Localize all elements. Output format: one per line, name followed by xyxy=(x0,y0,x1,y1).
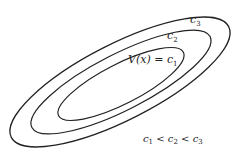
label-v-equals-c1: V(x) = c1 xyxy=(128,53,178,68)
label-c2: c2 xyxy=(167,29,178,44)
relation-label: c1 < c2 < c3 xyxy=(143,133,203,146)
level-curve-c1 xyxy=(50,34,193,133)
level-set-diagram: c3 c2 V(x) = c1 c1 < c2 < c3 xyxy=(0,0,241,159)
level-curve-c3 xyxy=(0,0,241,159)
label-c3: c3 xyxy=(190,13,201,28)
